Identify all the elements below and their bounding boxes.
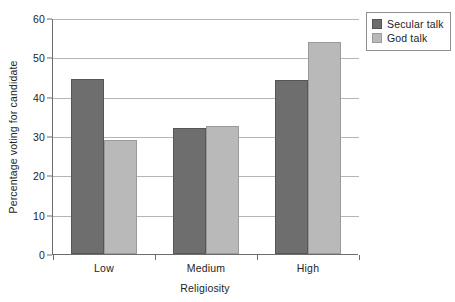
- bar-low-secular-talk: [71, 79, 104, 254]
- legend-item-label: Secular talk: [387, 18, 444, 30]
- x-axis-title: Religiosity: [52, 282, 358, 294]
- bar-high-god-talk: [308, 42, 341, 254]
- x-axis-tick-mark: [53, 255, 54, 260]
- x-axis-tick-mark: [359, 255, 360, 260]
- y-axis-tick-label: 60: [19, 13, 45, 25]
- y-axis-tick-label: 40: [19, 92, 45, 104]
- bar-medium-god-talk: [206, 126, 239, 254]
- x-axis-tick-label-medium: Medium: [187, 262, 226, 274]
- legend-item: Secular talk: [372, 17, 445, 31]
- gridline: [53, 19, 359, 20]
- y-axis-tick-label: 0: [19, 249, 45, 261]
- x-axis-tick-label-high: High: [297, 262, 319, 274]
- y-axis-tick-label: 30: [19, 131, 45, 143]
- y-axis-tick-label: 20: [19, 170, 45, 182]
- plot-area: LowMediumHigh: [52, 19, 358, 255]
- x-axis-tick-mark: [155, 255, 156, 260]
- x-axis-tick-label-low: Low: [94, 262, 114, 274]
- y-axis-tick-label: 50: [19, 52, 45, 64]
- legend-item-label: God talk: [387, 32, 427, 44]
- x-axis-tick-mark: [257, 255, 258, 260]
- bar-chart: Percentage voting for candidate 01020304…: [0, 0, 455, 302]
- bar-low-god-talk: [104, 140, 137, 254]
- legend: Secular talkGod talk: [366, 12, 451, 51]
- bar-high-secular-talk: [275, 80, 308, 254]
- light-gray-swatch: [372, 33, 382, 43]
- dark-gray-swatch: [372, 19, 382, 29]
- bar-medium-secular-talk: [173, 128, 206, 254]
- legend-item: God talk: [372, 31, 445, 45]
- y-axis-tick-label: 10: [19, 210, 45, 222]
